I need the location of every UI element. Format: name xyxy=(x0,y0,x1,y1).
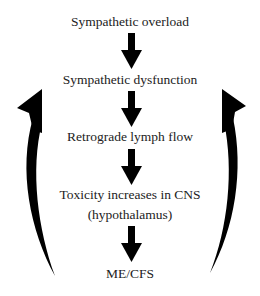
node-sympathetic-dysfunction: Sympathetic dysfunction xyxy=(0,72,260,88)
node-me-cfs: ME/CFS xyxy=(0,266,260,282)
down-arrow-3 xyxy=(121,149,142,185)
node-hypothalamus: (hypothalamus) xyxy=(0,207,260,223)
down-arrow-4 xyxy=(121,226,142,262)
feedback-arrow-right xyxy=(210,89,246,273)
node-retrograde-lymph-flow: Retrograde lymph flow xyxy=(0,129,260,145)
node-sympathetic-overload: Sympathetic overload xyxy=(0,14,260,30)
down-arrow-2 xyxy=(121,91,142,127)
node-toxicity-cns: Toxicity increases in CNS xyxy=(0,187,260,203)
feedback-arrow-left xyxy=(17,89,55,276)
diagram-arrows xyxy=(0,0,260,296)
down-arrow-1 xyxy=(121,33,142,69)
